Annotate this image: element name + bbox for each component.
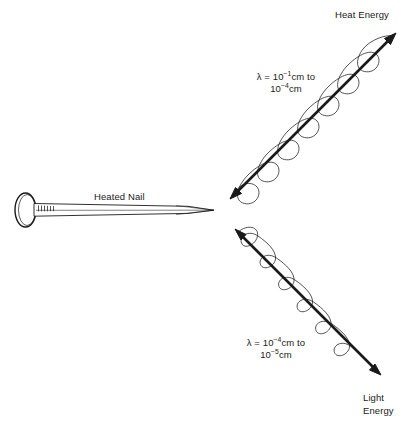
light-energy-label-line2: Energy — [363, 405, 394, 418]
heat-from-base: 10 — [273, 71, 284, 82]
light-from-base: 10 — [263, 337, 274, 348]
heat-energy-wave — [230, 33, 396, 204]
radiation-diagram: Heat Energy Light Energy Heated Nail λ =… — [0, 0, 420, 429]
heat-to-base: 10 — [270, 83, 281, 94]
light-from-unit: cm — [281, 337, 294, 348]
light-connector: to — [294, 337, 305, 348]
heat-from-unit: cm — [291, 71, 304, 82]
heat-to-unit: cm — [289, 83, 302, 94]
light-equals: = — [252, 337, 263, 348]
heat-energy-label: Heat Energy — [335, 9, 389, 21]
light-wavelength-label: λ = 10−4cm to 10−5cm — [228, 337, 324, 360]
heat-arrow-shaft — [233, 36, 393, 196]
diagram-canvas — [0, 0, 420, 429]
heat-equals: = — [262, 71, 273, 82]
heat-wavelength-line2: 10−4cm — [243, 83, 329, 95]
heat-to-exponent: −4 — [281, 81, 289, 88]
light-wavelength-line2: 10−5cm — [228, 349, 324, 361]
heat-connector: to — [304, 71, 315, 82]
light-to-unit: cm — [279, 349, 292, 360]
light-energy-label-line1: Light — [363, 392, 394, 405]
nail-shank — [34, 204, 214, 217]
light-energy-label: Light Energy — [363, 392, 394, 417]
light-to-base: 10 — [260, 349, 271, 360]
heated-nail-label: Heated Nail — [94, 191, 145, 203]
light-to-exponent: −5 — [271, 347, 279, 354]
heat-wavelength-label: λ = 10−1cm to 10−4cm — [243, 71, 329, 94]
